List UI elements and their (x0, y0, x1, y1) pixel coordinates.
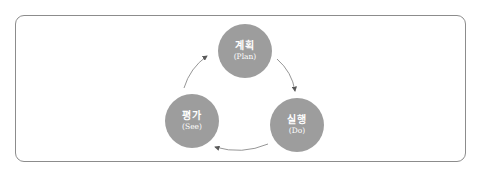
node-do-label: 실행 (287, 114, 307, 126)
node-plan-label: 계획 (235, 40, 255, 52)
arrow-plan-to-do (277, 59, 295, 91)
node-plan: 계획 (Plan) (218, 24, 272, 78)
node-see-label: 평가 (182, 110, 202, 122)
node-plan-sublabel: (Plan) (234, 52, 257, 62)
arrow-do-to-see (215, 144, 268, 150)
node-do: 실행 (Do) (270, 98, 324, 152)
node-see: 평가 (See) (165, 94, 219, 148)
node-do-sublabel: (Do) (289, 126, 305, 136)
node-see-sublabel: (See) (182, 122, 202, 132)
arrow-see-to-plan (184, 56, 207, 88)
